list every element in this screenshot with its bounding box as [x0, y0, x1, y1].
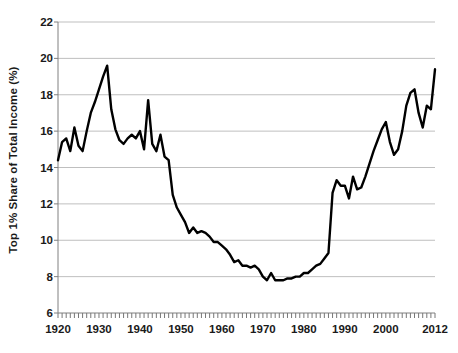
plot-area [0, 0, 458, 353]
minor-tick-marks [54, 22, 435, 318]
chart-container: Top 1% Share of Total Income (%) 6810121… [0, 0, 458, 353]
data-line-series [58, 66, 435, 281]
gridlines [58, 22, 435, 277]
series-line [58, 66, 435, 281]
